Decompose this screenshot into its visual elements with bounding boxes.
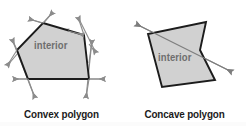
figure-concave-polygon: Concave polygon xyxy=(123,0,246,126)
interior-label-concave: interior xyxy=(158,52,191,63)
caption-convex-polygon: Convex polygon xyxy=(4,108,120,120)
caption-concave-polygon: Concave polygon xyxy=(127,108,243,120)
diagram-page: interior Convex polygon Concave polygon … xyxy=(0,0,246,126)
interior-label-convex: interior xyxy=(34,40,67,51)
figure-convex-polygon: interior Convex polygon xyxy=(0,0,123,126)
bottom-edge-strip xyxy=(0,122,246,126)
